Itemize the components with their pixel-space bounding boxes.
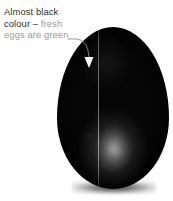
annotation-line-2-dark: colour – — [4, 18, 41, 29]
egg-colour-figure: Almost black colour – fresh eggs are gre… — [0, 0, 173, 201]
annotation-line-1: Almost black — [4, 6, 96, 18]
egg-body — [57, 27, 169, 189]
annotation-line-3: eggs are green — [4, 29, 96, 41]
egg-vertical-highlight-seam — [98, 27, 99, 189]
annotation-line-2-grey: fresh — [41, 18, 62, 29]
annotation-label: Almost black colour – fresh eggs are gre… — [4, 6, 96, 41]
egg-specular-highlight — [97, 127, 131, 171]
